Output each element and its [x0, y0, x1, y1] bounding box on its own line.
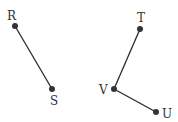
label-u: U	[162, 107, 172, 121]
segment-tv	[114, 29, 140, 89]
label-v: V	[98, 83, 108, 97]
point-t	[137, 26, 143, 32]
geometry-figure: R S T V U	[0, 0, 178, 122]
point-s	[49, 86, 55, 92]
label-r: R	[7, 9, 17, 23]
point-u	[153, 109, 159, 115]
segment-rs	[15, 26, 52, 89]
point-r	[12, 23, 18, 29]
label-t: T	[137, 11, 145, 25]
point-v	[111, 86, 117, 92]
segment-vu	[114, 89, 156, 112]
label-s: S	[50, 94, 58, 108]
